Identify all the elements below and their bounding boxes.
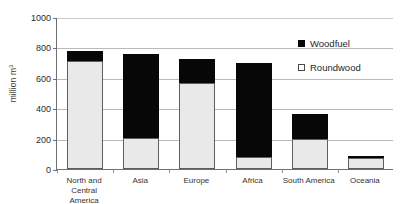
x-axis-label: Africa [225, 176, 281, 186]
bar-segment-woodfuel [348, 156, 384, 158]
bar-group [123, 54, 159, 169]
x-tick-mark [282, 169, 283, 173]
x-tick-mark [169, 169, 170, 173]
y-tick-label: 1000 [31, 13, 51, 23]
x-axis-label: Europe [168, 176, 224, 186]
y-tick-label: 400 [36, 104, 51, 114]
bar-group [348, 157, 384, 169]
x-axis-labels: North and Central AmericaAsiaEuropeAfric… [56, 176, 393, 204]
bar-group [179, 59, 215, 169]
y-tick-label: 600 [36, 74, 51, 84]
x-axis-label: Oceania [337, 176, 393, 186]
x-tick-mark [226, 169, 227, 173]
bar-segment-woodfuel [292, 114, 328, 140]
x-tick-mark [338, 169, 339, 173]
y-tick-label: 800 [36, 43, 51, 53]
x-axis-label: North and Central America [56, 176, 112, 204]
bar-group [292, 114, 328, 169]
legend-label-roundwood: Roundwood [310, 62, 361, 73]
x-axis-label: South America [281, 176, 337, 186]
bar-segment-woodfuel [123, 54, 159, 138]
legend-label-woodfuel: Woodfuel [310, 38, 350, 49]
y-axis-title-text: million m [8, 68, 18, 102]
legend-item-roundwood: Roundwood [298, 59, 394, 75]
stacked-bar-chart: million m3 02004006008001000 North and C… [0, 0, 403, 204]
bar-segment-roundwood [348, 158, 384, 169]
open-square-icon [298, 64, 305, 71]
filled-square-icon [298, 40, 305, 47]
y-tick-label: 200 [36, 135, 51, 145]
chart-legend: Woodfuel Roundwood [298, 35, 394, 83]
y-tick-label: 0 [46, 165, 51, 175]
bar-segment-roundwood [236, 157, 272, 169]
bar-segment-roundwood [179, 83, 215, 169]
bar-segment-roundwood [123, 138, 159, 169]
bar-segment-roundwood [67, 61, 103, 169]
x-tick-mark [113, 169, 114, 173]
bar-group [67, 51, 103, 169]
bar-segment-woodfuel [179, 59, 215, 83]
x-tick-mark [57, 169, 58, 173]
bar-segment-woodfuel [67, 51, 103, 61]
bar-group [236, 63, 272, 169]
y-axis-title-superscript: 3 [8, 64, 14, 67]
legend-item-woodfuel: Woodfuel [298, 35, 394, 51]
y-axis-title: million m3 [8, 48, 19, 118]
bar-segment-roundwood [292, 139, 328, 169]
bar-segment-woodfuel [236, 63, 272, 157]
x-axis-label: Asia [112, 176, 168, 186]
